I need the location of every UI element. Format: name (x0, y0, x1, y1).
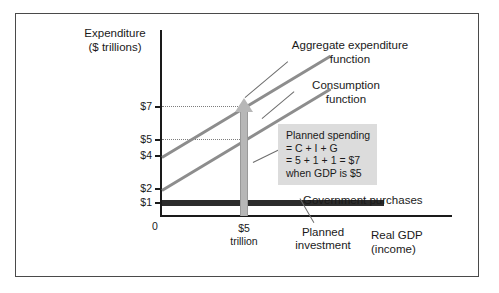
planned-spending-callout: Planned spending = C + I + G = 5 + 1 + 1… (278, 124, 377, 185)
callout-line1: Planned spending (286, 129, 370, 142)
government-purchases-label: Government purchases (303, 194, 423, 208)
y-axis-title-line1: Expenditure (60, 26, 170, 40)
y-axis-title-line2: ($ trillions) (60, 40, 170, 54)
y-tick-label-4: $4 (120, 150, 152, 161)
aggregate-expenditure-label-line1: Aggregate expenditure (270, 39, 430, 53)
origin-label: 0 (152, 220, 158, 232)
callout-line4: when GDP is $5 (286, 167, 370, 180)
y-tick-label-2: $2 (120, 183, 152, 194)
y-tick-label-1: $1 (120, 197, 152, 208)
x-axis-title-line1: Real GDP (371, 228, 471, 242)
y-tick-label-7: $7 (120, 101, 152, 112)
x-marker-label: $5 trillion (209, 222, 279, 247)
callout-line3: = 5 + 1 + 1 = $7 (286, 154, 370, 167)
y-axis-title: Expenditure ($ trillions) (60, 26, 170, 54)
planned-investment-label-line1: Planned (278, 226, 368, 239)
planned-investment-label-line2: investment (278, 239, 368, 252)
aggregate-expenditure-label: Aggregate expenditure function (270, 39, 430, 66)
x-axis-title: Real GDP (income) (371, 228, 471, 256)
x-axis-title-line2: (income) (371, 242, 471, 256)
y-tick-label-5: $5 (120, 134, 152, 145)
aggregate-expenditure-label-line2: function (270, 53, 430, 67)
planned-investment-label: Planned investment (278, 226, 368, 252)
x-marker-label-line2: trillion (209, 235, 279, 248)
callout-line2: = C + I + G (286, 142, 370, 155)
consumption-function-label-line2: function (296, 93, 396, 107)
figure-container: Expenditure ($ trillions) $7 $5 $4 $2 $1… (0, 0, 499, 293)
x-marker-label-line1: $5 (209, 222, 279, 235)
consumption-function-label-line1: Consumption (296, 79, 396, 93)
consumption-function-label: Consumption function (296, 79, 396, 106)
